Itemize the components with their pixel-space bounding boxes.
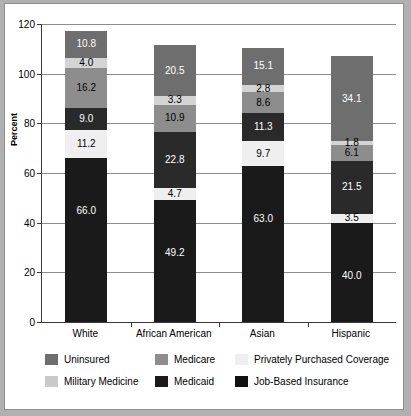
- legend-row-1: UninsuredMedicarePrivately Purchased Cov…: [5, 354, 405, 374]
- bar-segment: 8.6: [242, 92, 284, 113]
- legend-swatch: [155, 354, 168, 365]
- legend-item[interactable]: Privately Purchased Coverage: [235, 354, 389, 365]
- gridline: [42, 24, 396, 25]
- bar-segment-value: 10.9: [165, 113, 184, 123]
- bar-segment: 22.8: [154, 132, 196, 189]
- x-axis-label-african-american: African American: [136, 328, 212, 339]
- bar-segment-value: 3.5: [345, 213, 359, 223]
- bar-segment: 34.1: [331, 56, 373, 141]
- bar-segment-value: 9.0: [79, 114, 93, 124]
- bar-segment: 4.7: [154, 188, 196, 200]
- bar-segment-value: 34.1: [342, 94, 361, 104]
- y-tick: [37, 173, 42, 174]
- x-tick: [308, 322, 309, 327]
- y-tick-label: 120: [18, 19, 35, 30]
- bar-segment: 2.8: [242, 85, 284, 92]
- bar-segment: 11.2: [65, 130, 107, 158]
- bar-segment-value: 20.5: [165, 66, 184, 76]
- legend-label: Medicaid: [174, 376, 214, 387]
- bar-segment-value: 8.6: [256, 98, 270, 108]
- y-axis-label: Percent: [9, 132, 19, 146]
- bar-african-american[interactable]: 20.53.310.922.84.749.2: [154, 45, 196, 322]
- x-tick: [219, 322, 220, 327]
- bar-segment: 3.5: [331, 214, 373, 223]
- chart-figure: Percent 020406080100120 10.84.016.29.011…: [4, 3, 404, 410]
- bar-segment-value: 3.3: [168, 95, 182, 105]
- legend-swatch: [45, 354, 58, 365]
- legend-item[interactable]: Uninsured: [45, 354, 110, 365]
- bar-segment-value: 6.1: [345, 148, 359, 158]
- plot-area: Percent 020406080100120 10.84.016.29.011…: [5, 4, 405, 334]
- x-tick: [131, 322, 132, 327]
- legend-row-2: Military MedicineMedicaidJob-Based Insur…: [5, 376, 405, 396]
- bar-segment-value: 15.1: [254, 61, 273, 71]
- bar-segment-value: 40.0: [342, 271, 361, 281]
- bar-segment: 15.1: [242, 48, 284, 85]
- bar-segment-value: 9.7: [256, 149, 270, 159]
- bar-white[interactable]: 10.84.016.29.011.266.0: [65, 31, 107, 322]
- bar-segment: 3.3: [154, 96, 196, 104]
- legend-item[interactable]: Military Medicine: [45, 376, 138, 387]
- bar-segment-value: 63.0: [254, 214, 273, 224]
- y-tick: [37, 272, 42, 273]
- legend-swatch: [235, 376, 248, 387]
- bar-segment: 9.7: [242, 141, 284, 165]
- legend-label: Uninsured: [64, 354, 110, 365]
- bar-segment: 49.2: [154, 200, 196, 322]
- y-tick: [37, 24, 42, 25]
- bar-segment-value: 11.3: [254, 122, 273, 132]
- bar-segment: 9.0: [65, 108, 107, 130]
- x-axis-label-hispanic: Hispanic: [332, 328, 370, 339]
- x-axis-label-asian: Asian: [250, 328, 275, 339]
- bar-segment-value: 11.2: [77, 139, 96, 149]
- legend-label: Medicare: [174, 354, 215, 365]
- legend-item[interactable]: Job-Based Insurance: [235, 376, 349, 387]
- bar-asian[interactable]: 15.12.88.611.39.763.0: [242, 48, 284, 322]
- bar-segment-value: 10.8: [77, 39, 96, 49]
- bar-segment: 21.5: [331, 161, 373, 214]
- y-tick: [37, 223, 42, 224]
- bar-hispanic[interactable]: 34.11.86.121.53.540.0: [331, 56, 373, 322]
- bar-segment-value: 66.0: [77, 206, 96, 216]
- legend-label: Job-Based Insurance: [254, 376, 349, 387]
- plot-frame: 020406080100120 10.84.016.29.011.266.020…: [41, 24, 396, 323]
- legend-swatch: [155, 376, 168, 387]
- legend-swatch: [45, 376, 58, 387]
- y-tick: [37, 123, 42, 124]
- y-tick-label: 20: [24, 267, 35, 278]
- bar-segment: 10.8: [65, 31, 107, 58]
- chart-legend: UninsuredMedicarePrivately Purchased Cov…: [5, 354, 405, 404]
- bar-segment: 20.5: [154, 45, 196, 96]
- bar-segment-value: 16.2: [77, 83, 96, 93]
- bar-segment: 4.0: [65, 58, 107, 68]
- bar-segment: 11.3: [242, 113, 284, 141]
- y-tick-label: 60: [24, 168, 35, 179]
- bar-segment-value: 22.8: [165, 155, 184, 165]
- bar-segment: 40.0: [331, 223, 373, 322]
- y-tick: [37, 322, 42, 323]
- legend-swatch: [235, 354, 248, 365]
- y-tick-label: 40: [24, 217, 35, 228]
- legend-item[interactable]: Medicare: [155, 354, 215, 365]
- y-tick-label: 100: [18, 68, 35, 79]
- legend-label: Military Medicine: [64, 376, 138, 387]
- bar-segment-value: 2.8: [256, 84, 270, 94]
- bar-segment: 66.0: [65, 158, 107, 322]
- y-tick-label: 80: [24, 118, 35, 129]
- legend-label: Privately Purchased Coverage: [254, 354, 389, 365]
- bar-segment: 63.0: [242, 166, 284, 322]
- bar-segment: 16.2: [65, 68, 107, 108]
- bar-segment: 6.1: [331, 145, 373, 160]
- legend-item[interactable]: Medicaid: [155, 376, 214, 387]
- bar-segment-value: 4.7: [168, 189, 182, 199]
- y-tick-label: 0: [29, 317, 35, 328]
- bar-segment-value: 49.2: [165, 248, 184, 258]
- bar-segment-value: 21.5: [342, 182, 361, 192]
- bar-segment-value: 4.0: [79, 58, 93, 68]
- y-tick: [37, 74, 42, 75]
- bar-segment: 10.9: [154, 105, 196, 132]
- x-axis-label-white: White: [72, 328, 98, 339]
